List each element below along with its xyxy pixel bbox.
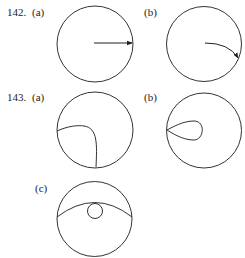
figure-143b — [167, 93, 242, 168]
figure-canvas — [0, 0, 245, 258]
boundary-circle — [57, 6, 133, 82]
teardrop-loop — [167, 121, 202, 140]
curved-arrow — [205, 43, 238, 58]
figure-143c — [57, 182, 132, 257]
curved-arc — [57, 126, 97, 167]
figure-142a — [57, 6, 133, 82]
boundary-circle — [167, 7, 242, 82]
inner-circle — [88, 204, 103, 219]
boundary-circle — [167, 93, 242, 168]
boundary-circle — [57, 92, 133, 168]
boundary-circle — [57, 182, 132, 257]
figure-142b — [167, 7, 242, 82]
chord-arc — [57, 203, 132, 218]
figure-143a — [57, 92, 133, 168]
